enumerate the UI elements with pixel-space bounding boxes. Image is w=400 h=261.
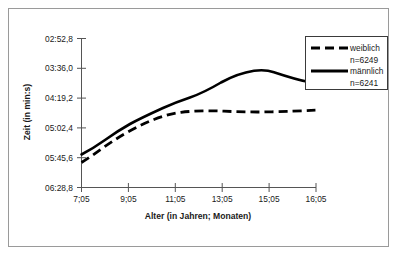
chart-plot-svg: 02:52,8 03:36,0 04:19,2 05:02,4 05:45,6 …	[0, 0, 400, 261]
chart-figure: 02:52,8 03:36,0 04:19,2 05:02,4 05:45,6 …	[0, 0, 400, 261]
legend-label-maennlich: männlich	[350, 66, 384, 76]
y-tick-label-0: 02:52,8	[45, 34, 73, 44]
legend-label-weiblich: weiblich	[349, 43, 380, 53]
legend-count-weiblich: n=6249	[350, 55, 379, 65]
y-tick-label-5: 06:28,8	[45, 183, 73, 193]
y-axis-title: Zeit (in min:s)	[22, 84, 32, 140]
x-tick-label-1: 9;05	[120, 194, 137, 204]
x-tick-label-3: 13;05	[212, 194, 233, 204]
x-axis-title: Alter (in Jahren; Monaten)	[145, 211, 252, 221]
y-tick-label-1: 03:36,0	[45, 63, 73, 73]
series-line-weiblich	[82, 110, 317, 162]
x-tick-label-0: 7;05	[73, 194, 90, 204]
y-tick-label-4: 05:45,6	[45, 153, 73, 163]
y-tick-label-2: 04:19,2	[45, 93, 73, 103]
legend-count-maennlich: n=6241	[350, 78, 379, 88]
y-tick-label-3: 05:02,4	[45, 123, 73, 133]
x-tick-label-2: 11;05	[165, 194, 186, 204]
x-tick-label-5: 16;05	[306, 194, 327, 204]
x-tick-label-4: 15;05	[259, 194, 280, 204]
